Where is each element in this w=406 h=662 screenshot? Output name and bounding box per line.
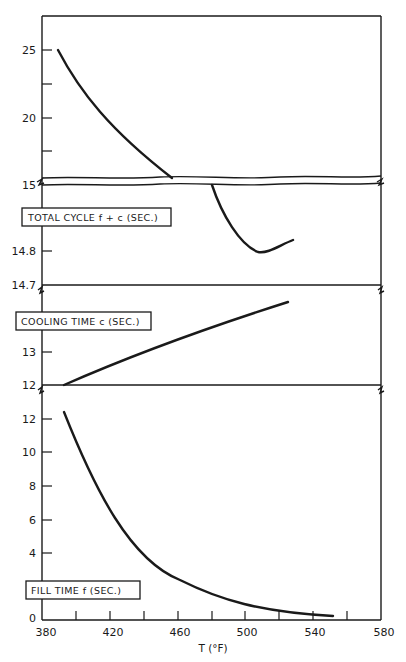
- y-label-12-fill: 12: [22, 413, 36, 426]
- y-label-15: 15: [22, 179, 36, 192]
- fill-time-label-text: FILL TIME f (SEC.): [31, 585, 121, 596]
- y-label-0: 0: [29, 612, 36, 625]
- x-label-500: 500: [237, 626, 258, 639]
- y-label-13: 13: [22, 346, 36, 359]
- cooling-time-label-text: COOLING TIME c (SEC.): [21, 316, 140, 327]
- y-label-20: 20: [22, 112, 36, 125]
- axis-break-mark: [378, 387, 384, 393]
- y-label-12-cooling: 12: [22, 379, 36, 392]
- x-label-580: 580: [374, 626, 395, 639]
- y-tick-labels: 25 20 15 14.8 14.7 13 12 12 10 8 6 4 0: [12, 44, 37, 625]
- axis-break-mark: [377, 179, 384, 185]
- x-label-540: 540: [305, 626, 326, 639]
- x-label-380: 380: [36, 626, 57, 639]
- y-label-6: 6: [29, 514, 36, 527]
- axis-break-line-top: [42, 176, 381, 178]
- axis-break-mark: [38, 387, 44, 393]
- series-total-cycle-upper: [58, 50, 172, 178]
- series-label-fill-time: FILL TIME f (SEC.): [26, 581, 140, 599]
- total-cycle-label-text: TOTAL CYCLE f + c (SEC.): [27, 212, 158, 223]
- x-tick-labels: 380 420 460 500 540 580 T (°F): [36, 626, 395, 654]
- y-label-8: 8: [29, 480, 36, 493]
- x-label-420: 420: [103, 626, 124, 639]
- series-label-cooling-time: COOLING TIME c (SEC.): [16, 312, 151, 330]
- y-label-4: 4: [29, 547, 36, 560]
- x-label-460: 460: [170, 626, 191, 639]
- data-series: [58, 50, 333, 616]
- y-label-10: 10: [22, 446, 36, 459]
- y-label-14-8: 14.8: [12, 245, 37, 258]
- axis-break-mark: [38, 287, 44, 293]
- chart-canvas: 25 20 15 14.8 14.7 13 12 12 10 8 6 4 0 3…: [0, 0, 406, 662]
- y-label-14-7: 14.7: [12, 279, 37, 292]
- series-total-cycle-lower: [212, 185, 293, 252]
- y-label-25: 25: [22, 44, 36, 57]
- series-label-total-cycle: TOTAL CYCLE f + c (SEC.): [22, 208, 171, 226]
- axis-break-mark: [37, 179, 44, 185]
- x-ticks: [76, 611, 347, 620]
- axis-break-mark: [378, 287, 384, 293]
- x-axis-title: T (°F): [197, 642, 227, 654]
